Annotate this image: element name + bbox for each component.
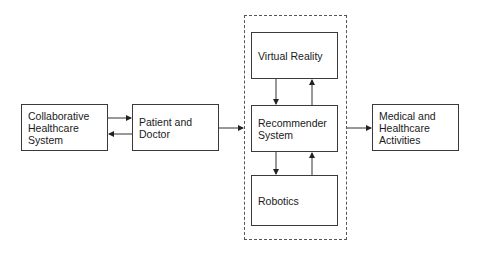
edges-layer bbox=[0, 0, 479, 253]
diagram-canvas: Collaborative Healthcare System Patient … bbox=[0, 0, 479, 253]
